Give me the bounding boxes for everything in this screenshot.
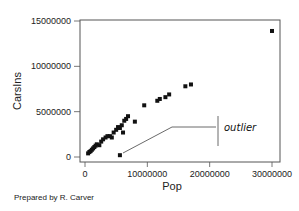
outlier-point	[118, 153, 122, 157]
y-axis-title: CarsIns	[11, 72, 23, 110]
data-point	[183, 84, 187, 88]
data-point	[167, 92, 171, 96]
y-tick-label: 10000000	[31, 61, 71, 71]
x-axis: 0100000002000000030000000	[82, 162, 292, 179]
data-point	[133, 120, 137, 124]
data-point	[163, 95, 167, 99]
data-point	[126, 114, 130, 118]
data-point	[158, 97, 162, 101]
data-point	[189, 82, 193, 86]
footer-credit: Prepared by R. Carver	[14, 193, 94, 202]
data-point	[110, 136, 114, 140]
y-tick-label: 5000000	[36, 107, 71, 117]
x-tick-label: 0	[82, 169, 87, 179]
data-point	[97, 143, 101, 147]
outlier-annotation: outlier	[123, 116, 257, 153]
data-points	[86, 29, 274, 157]
y-tick-label: 0	[66, 152, 71, 162]
data-point	[270, 29, 274, 33]
y-tick-label: 15000000	[31, 16, 71, 26]
annotation-label: outlier	[224, 122, 257, 133]
data-point	[120, 123, 124, 127]
x-tick-label: 10000000	[127, 169, 167, 179]
scatter-plot: 050000001000000015000000 010000000200000…	[0, 0, 299, 211]
x-tick-label: 30000000	[252, 169, 292, 179]
data-point	[121, 131, 125, 135]
x-axis-title: Pop	[162, 180, 182, 192]
annotation-leader-line	[123, 127, 216, 153]
plot-frame	[80, 20, 280, 162]
data-point	[142, 103, 146, 107]
y-axis: 050000001000000015000000	[31, 16, 80, 162]
x-tick-label: 20000000	[190, 169, 230, 179]
